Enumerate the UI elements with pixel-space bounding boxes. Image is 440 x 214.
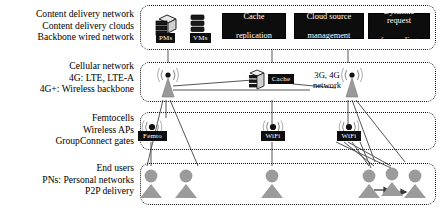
access-label-line-2: Wireless APs — [0, 124, 134, 136]
cache-replication-line-2: replication — [234, 31, 274, 41]
cellular-label-line-3: 4G+: Wireless backbone — [0, 83, 134, 95]
access-label-line-1: Femtocells — [0, 112, 134, 124]
access-label-line-3: GroupConnect gates — [0, 135, 134, 147]
wifi-chip-label-1: WiFi — [261, 131, 285, 141]
cellular-label-line-2: 4G: LTE, LTE-A — [0, 72, 134, 84]
user-icon-3 — [259, 168, 285, 200]
cell-tower-icon-mid — [262, 66, 290, 100]
user-icon-2 — [173, 168, 199, 200]
wifi-chip-label-2: WiFi — [337, 131, 361, 141]
user-icon-6 — [402, 168, 428, 200]
vms-chip-label: VMs — [190, 33, 211, 43]
cell-tower-icon-4 — [352, 66, 380, 100]
cache-replication-line-1: Cache — [234, 12, 274, 22]
dynamic-request-forwarding-line-2: forwarding — [371, 36, 427, 46]
network-generation-line-2: network — [313, 80, 341, 90]
network-architecture-diagram: Content delivery network Content deliver… — [0, 0, 440, 214]
user-icon-1 — [138, 168, 164, 200]
pms-chip-label: PMs — [156, 33, 175, 43]
cdn-label-line-1: Content delivery network — [0, 8, 134, 20]
network-generation-line-1: 3G, 4G — [314, 70, 339, 80]
users-layer-labels: End users PNs: Personal networks P2P del… — [0, 162, 136, 197]
cdn-layer-labels: Content delivery network Content deliver… — [0, 8, 136, 43]
cellular-label-line-1: Cellular network — [0, 60, 134, 72]
users-label-line-1: End users — [0, 162, 134, 174]
users-label-line-3: P2P delivery — [0, 185, 134, 197]
cdn-label-line-3: Backbone wired network — [0, 31, 134, 43]
access-layer-band — [140, 112, 436, 150]
cdn-label-line-2: Content delivery clouds — [0, 20, 134, 32]
cache-replication-box[interactable]: Cache replication — [222, 13, 286, 39]
cloud-source-management-line-2: management — [305, 31, 353, 41]
cell-tower-icon — [154, 66, 182, 100]
femto-chip-label: Femto — [138, 131, 167, 141]
dynamic-request-forwarding-line-1: Dynamic request — [371, 7, 427, 26]
users-label-line-2: PNs: Personal networks — [0, 174, 134, 186]
dynamic-request-forwarding-box[interactable]: Dynamic request forwarding — [368, 13, 430, 39]
cloud-source-management-line-1: Cloud source — [305, 12, 353, 22]
cloud-source-management-box[interactable]: Cloud source management — [294, 13, 364, 39]
cellular-layer-labels: Cellular network 4G: LTE, LTE-A 4G+: Wir… — [0, 60, 136, 95]
access-layer-labels: Femtocells Wireless APs GroupConnect gat… — [0, 112, 136, 147]
